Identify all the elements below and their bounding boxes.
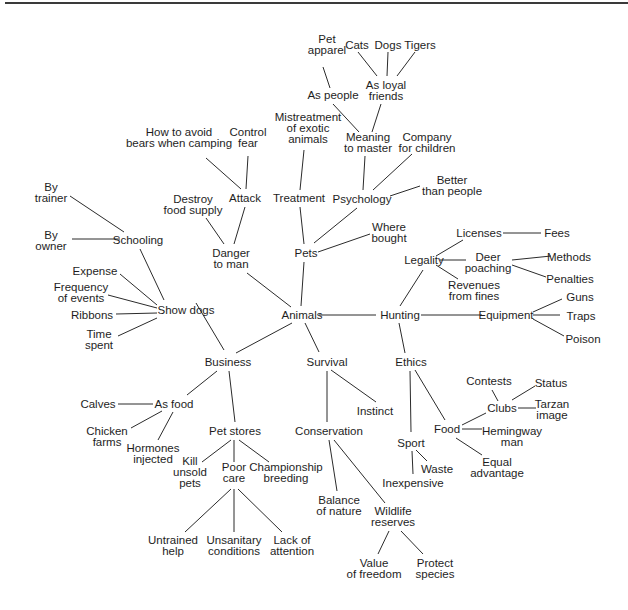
- node-label: of freedom: [347, 568, 402, 580]
- node-loyal: As loyalfriends: [366, 79, 406, 102]
- connector-line: [533, 299, 562, 312]
- node-label: image: [536, 409, 567, 421]
- node-label: breeding: [264, 472, 309, 484]
- node-label: poaching: [465, 262, 512, 274]
- node-legality: Legality: [404, 254, 444, 266]
- node-label: conditions: [208, 545, 260, 557]
- node-guns: Guns: [566, 291, 594, 303]
- node-status: Status: [535, 377, 568, 389]
- connector-line: [314, 208, 357, 243]
- node-lack: Lack ofattention: [270, 534, 314, 557]
- node-ethics: Ethics: [395, 356, 427, 368]
- node-hormones: Hormonesinjected: [126, 442, 179, 465]
- connector-line: [401, 531, 423, 554]
- connector-line: [239, 440, 269, 462]
- connector-line: [323, 67, 330, 88]
- connector-line: [238, 489, 282, 532]
- node-inexpensive: Inexpensive: [382, 477, 443, 489]
- node-label: Status: [535, 377, 568, 389]
- node-label: As food: [155, 398, 194, 410]
- node-waste: Waste: [421, 463, 453, 475]
- node-label: Schooling: [113, 234, 164, 246]
- node-label: of nature: [316, 505, 361, 517]
- node-food: Food: [434, 423, 460, 435]
- node-time: Timespent: [85, 328, 114, 351]
- node-label: Cats: [345, 39, 369, 51]
- connector-line: [131, 411, 162, 428]
- node-label: farms: [93, 436, 122, 448]
- node-label: Dogs: [375, 39, 402, 51]
- node-label: injected: [133, 453, 173, 465]
- connector-line: [400, 270, 423, 306]
- connector-line: [363, 156, 365, 190]
- connector-line: [301, 262, 304, 306]
- connector-line: [533, 319, 564, 336]
- node-label: of events: [58, 292, 105, 304]
- node-label: Conservation: [295, 425, 363, 437]
- connector-line: [512, 256, 551, 260]
- node-meaning: Meaningto master: [344, 131, 392, 154]
- connector-line: [108, 295, 157, 308]
- node-mistreatment: Mistreatmentof exoticanimals: [275, 111, 342, 145]
- node-label: attention: [270, 545, 314, 557]
- node-label: Instinct: [357, 405, 394, 417]
- node-traps: Traps: [567, 310, 596, 322]
- node-business: Business: [205, 356, 252, 368]
- node-label: friends: [369, 90, 404, 102]
- node-label: Equipment: [479, 309, 535, 321]
- node-hemingway: Hemingwayman: [482, 425, 542, 448]
- connector-line: [397, 52, 415, 76]
- connector-line: [300, 207, 304, 244]
- node-poison: Poison: [565, 333, 600, 345]
- node-psychology: Psychology: [333, 193, 392, 205]
- node-treatment: Treatment: [273, 192, 326, 204]
- node-label: Inexpensive: [382, 477, 443, 489]
- connector-line: [202, 440, 231, 462]
- node-tigers: Tigers: [404, 39, 436, 51]
- node-label: Sport: [397, 437, 425, 449]
- node-label: Food: [434, 423, 460, 435]
- node-equal: Equaladvantage: [470, 456, 524, 479]
- node-label: Waste: [421, 463, 453, 475]
- node-petstores: Pet stores: [209, 425, 261, 437]
- node-label: bears when camping: [126, 137, 232, 149]
- node-apparel: Petapparel: [308, 33, 346, 56]
- node-label: to man: [213, 258, 248, 270]
- connector-line: [118, 318, 157, 336]
- node-label: than people: [422, 185, 482, 197]
- node-label: pets: [179, 477, 201, 489]
- node-label: apparel: [308, 44, 346, 56]
- node-label: Survival: [307, 356, 348, 368]
- node-deer: Deerpoaching: [465, 251, 512, 274]
- node-label: Contests: [466, 375, 512, 387]
- node-label: Business: [205, 356, 252, 368]
- node-better: Betterthan people: [422, 174, 482, 197]
- node-methods: Methods: [547, 251, 591, 263]
- node-label: Licenses: [456, 227, 502, 239]
- connector-line: [246, 156, 248, 189]
- connector-line: [492, 390, 498, 401]
- node-ribbons: Ribbons: [71, 309, 113, 321]
- node-trainer: Bytrainer: [35, 181, 68, 204]
- node-label: Animals: [282, 309, 323, 321]
- connector-line: [206, 218, 224, 244]
- node-label: advantage: [470, 467, 524, 479]
- node-balance: Balanceof nature: [316, 494, 361, 517]
- node-label: owner: [35, 240, 66, 252]
- node-label: for children: [399, 142, 456, 154]
- node-label: care: [223, 472, 245, 484]
- connector-line: [329, 440, 337, 491]
- connector-line: [410, 371, 411, 432]
- connector-line: [331, 370, 376, 402]
- node-label: Hunting: [380, 309, 420, 321]
- node-label: Expense: [73, 265, 118, 277]
- node-contests: Contests: [466, 375, 512, 387]
- node-label: to master: [344, 142, 392, 154]
- node-label: Show dogs: [158, 304, 215, 316]
- node-as-people: As people: [307, 89, 358, 101]
- connector-line: [387, 52, 388, 76]
- connector-line: [399, 323, 405, 353]
- node-where: Wherebought: [371, 221, 407, 244]
- node-label: Tigers: [404, 39, 436, 51]
- node-label: species: [416, 568, 455, 580]
